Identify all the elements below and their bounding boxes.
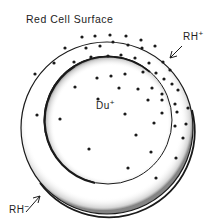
- antigen-dot: [93, 34, 96, 37]
- antigen-dot: [168, 68, 171, 71]
- rh-plus-sup: +: [198, 29, 203, 38]
- antigen-dot: [173, 124, 176, 127]
- rh-minus-base: RH: [9, 204, 24, 215]
- antigen-dot: [126, 166, 129, 169]
- antigen-dot: [161, 60, 164, 63]
- antigen-dot: [160, 98, 163, 101]
- antigen-dot: [73, 85, 76, 88]
- antigen-dot: [87, 147, 90, 150]
- antigen-dot: [72, 60, 75, 63]
- antigen-dot: [124, 34, 127, 37]
- antigen-dot: [140, 46, 143, 49]
- antigen-dot: [35, 113, 38, 116]
- du-plus-sup: +: [110, 98, 115, 107]
- antigen-dot: [154, 71, 157, 74]
- antigen-dot: [106, 54, 109, 57]
- rh-plus-base: RH: [183, 31, 198, 42]
- antigen-dot: [170, 82, 173, 85]
- antigen-dot: [117, 86, 120, 89]
- antigen-dot: [123, 72, 126, 75]
- antigen-dot: [153, 44, 156, 47]
- antigen-dot: [160, 92, 163, 95]
- antigen-dot: [63, 46, 66, 49]
- antigen-dot: [175, 110, 178, 113]
- antigen-dot: [160, 111, 163, 114]
- antigen-dot: [136, 87, 139, 90]
- antigen-dot: [58, 117, 61, 120]
- antigen-dot: [134, 133, 137, 136]
- antigen-dot: [181, 136, 184, 139]
- antigen-dot: [152, 121, 155, 124]
- antigen-dot: [147, 61, 150, 64]
- du-plus-base: Du: [96, 100, 110, 111]
- antigen-dot: [154, 176, 157, 179]
- antigen-dot: [119, 53, 122, 56]
- antigen-dot: [141, 70, 144, 73]
- antigen-dot: [173, 102, 176, 105]
- rh-plus-label: RH+: [183, 31, 204, 42]
- du-plus-label: Du+: [96, 100, 115, 111]
- antigen-dot: [111, 40, 114, 43]
- diagram-title: Red Cell Surface: [26, 13, 113, 25]
- antigen-dot: [98, 44, 101, 47]
- antigen-dot: [139, 38, 142, 41]
- rh-plus-arrow-icon: [170, 46, 182, 58]
- antigen-dot: [133, 56, 136, 59]
- antigen-dot: [123, 112, 126, 115]
- antigen-dot: [162, 77, 165, 80]
- antigen-dot: [184, 122, 187, 125]
- antigen-dot: [186, 106, 189, 109]
- rh-minus-label: RH−: [9, 204, 30, 215]
- antigen-dot: [89, 55, 92, 58]
- antigen-dot: [150, 86, 153, 89]
- antigen-dot: [174, 156, 177, 159]
- antigen-dot: [108, 33, 111, 36]
- antigen-dot: [126, 43, 129, 46]
- antigen-dot: [176, 88, 179, 91]
- antigen-dot: [109, 74, 112, 77]
- antigen-dot: [149, 150, 152, 153]
- antigen-dot: [84, 46, 87, 49]
- antigen-dot: [146, 98, 149, 101]
- antigen-dot: [52, 61, 55, 64]
- antigen-dot: [80, 35, 83, 38]
- antigen-dot: [33, 72, 36, 75]
- antigen-dot: [95, 76, 98, 79]
- rh-minus-sup: −: [24, 202, 29, 211]
